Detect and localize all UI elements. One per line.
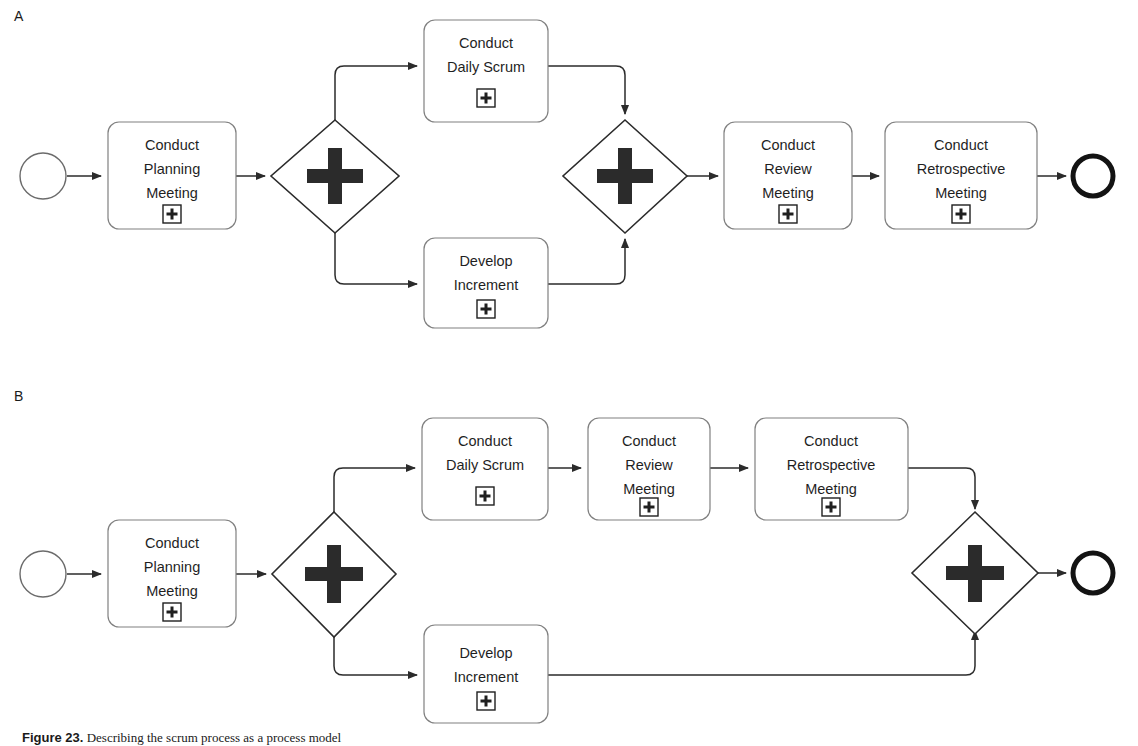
- flow-develop-to-join: [548, 239, 625, 284]
- task-label-line2: Daily Scrum: [447, 59, 525, 75]
- flow-develop-to-join: [548, 631, 975, 675]
- marker-plus-horizontal: [167, 213, 178, 216]
- task-conduct-daily-scrum-a[interactable]: Conduct Daily Scrum: [424, 20, 548, 122]
- task-label-line3: Meeting: [146, 583, 198, 599]
- end-event-a[interactable]: [1073, 156, 1113, 196]
- marker-plus-horizontal: [783, 213, 794, 216]
- task-conduct-retrospective-meeting-a[interactable]: Conduct Retrospective Meeting: [885, 122, 1037, 229]
- sub-process-expand-icon[interactable]: [952, 205, 970, 223]
- marker-plus-horizontal: [167, 611, 178, 614]
- flow-retrospective-to-join: [908, 468, 975, 509]
- task-label-line2: Review: [625, 457, 673, 473]
- gateway-plus-horizontal: [307, 169, 363, 183]
- marker-plus-horizontal: [481, 97, 492, 100]
- bpmn-diagram-b: Conduct Planning Meeting Conduct Daily S…: [0, 380, 1138, 746]
- task-conduct-retrospective-meeting-b[interactable]: Conduct Retrospective Meeting: [755, 418, 908, 520]
- task-label-line2: Daily Scrum: [446, 457, 524, 473]
- sub-process-expand-icon[interactable]: [477, 89, 495, 107]
- task-label-line1: Conduct: [804, 433, 858, 449]
- figure-caption-prefix: Figure 23.: [22, 730, 83, 745]
- task-label-line3: Meeting: [805, 481, 857, 497]
- task-label-line2: Review: [764, 161, 812, 177]
- flow-daily-scrum-to-join: [548, 66, 625, 114]
- task-conduct-planning-meeting-b[interactable]: Conduct Planning Meeting: [108, 520, 236, 627]
- task-label-line1: Conduct: [761, 137, 815, 153]
- task-label-line1: Develop: [459, 645, 512, 661]
- figure-caption: Figure 23. Describing the scrum process …: [22, 730, 341, 746]
- marker-plus-horizontal: [644, 506, 655, 509]
- task-label-line2: Planning: [144, 559, 200, 575]
- start-event-b[interactable]: [20, 551, 66, 597]
- flow-split-to-daily-scrum: [334, 468, 415, 512]
- task-develop-increment-a[interactable]: Develop Increment: [424, 238, 548, 328]
- parallel-gateway-split-b[interactable]: [272, 512, 396, 637]
- task-label-line1: Conduct: [622, 433, 676, 449]
- marker-plus-horizontal: [481, 700, 492, 703]
- sub-process-expand-icon[interactable]: [822, 498, 840, 516]
- task-conduct-daily-scrum-b[interactable]: Conduct Daily Scrum: [422, 418, 548, 520]
- gateway-plus-horizontal: [597, 169, 653, 183]
- task-conduct-planning-meeting-a[interactable]: Conduct Planning Meeting: [108, 122, 236, 229]
- gateway-plus-horizontal: [305, 567, 363, 581]
- figure-caption-text: Describing the scrum process as a proces…: [87, 730, 342, 745]
- sub-process-expand-icon[interactable]: [477, 692, 495, 710]
- bpmn-diagram-a: Conduct Planning Meeting Conduct Daily S…: [0, 0, 1138, 380]
- marker-plus-horizontal: [481, 308, 492, 311]
- task-label-line2: Increment: [454, 669, 518, 685]
- flow-split-to-develop: [335, 233, 417, 284]
- sub-process-expand-icon[interactable]: [163, 603, 181, 621]
- task-label-line3: Meeting: [623, 481, 675, 497]
- end-event-b[interactable]: [1073, 553, 1113, 593]
- task-label-line1: Conduct: [145, 137, 199, 153]
- flow-split-to-daily-scrum: [335, 66, 417, 120]
- task-label-line3: Meeting: [935, 185, 987, 201]
- task-label-line1: Conduct: [458, 433, 512, 449]
- task-label-line2: Retrospective: [787, 457, 876, 473]
- task-label-line1: Develop: [459, 253, 512, 269]
- task-label-line3: Meeting: [146, 185, 198, 201]
- task-conduct-review-meeting-b[interactable]: Conduct Review Meeting: [588, 418, 710, 520]
- marker-plus-horizontal: [480, 495, 491, 498]
- sub-process-expand-icon[interactable]: [640, 498, 658, 516]
- task-label-line2: Increment: [454, 277, 518, 293]
- parallel-gateway-join-a[interactable]: [563, 120, 687, 233]
- gateway-plus-horizontal: [946, 566, 1004, 580]
- sub-process-expand-icon[interactable]: [163, 205, 181, 223]
- task-conduct-review-meeting-a[interactable]: Conduct Review Meeting: [724, 122, 852, 229]
- flow-split-to-develop: [334, 637, 417, 675]
- parallel-gateway-join-b[interactable]: [912, 512, 1038, 634]
- task-label-line3: Meeting: [762, 185, 814, 201]
- sub-process-expand-icon[interactable]: [476, 487, 494, 505]
- task-label-line2: Retrospective: [917, 161, 1006, 177]
- sub-process-expand-icon[interactable]: [779, 205, 797, 223]
- marker-plus-horizontal: [826, 506, 837, 509]
- start-event-a[interactable]: [20, 153, 66, 199]
- parallel-gateway-split-a[interactable]: [271, 120, 399, 233]
- task-label-line1: Conduct: [459, 35, 513, 51]
- task-develop-increment-b[interactable]: Develop Increment: [424, 625, 548, 723]
- task-label-line1: Conduct: [145, 535, 199, 551]
- task-label-line1: Conduct: [934, 137, 988, 153]
- task-label-line2: Planning: [144, 161, 200, 177]
- sub-process-expand-icon[interactable]: [477, 300, 495, 318]
- marker-plus-horizontal: [956, 213, 967, 216]
